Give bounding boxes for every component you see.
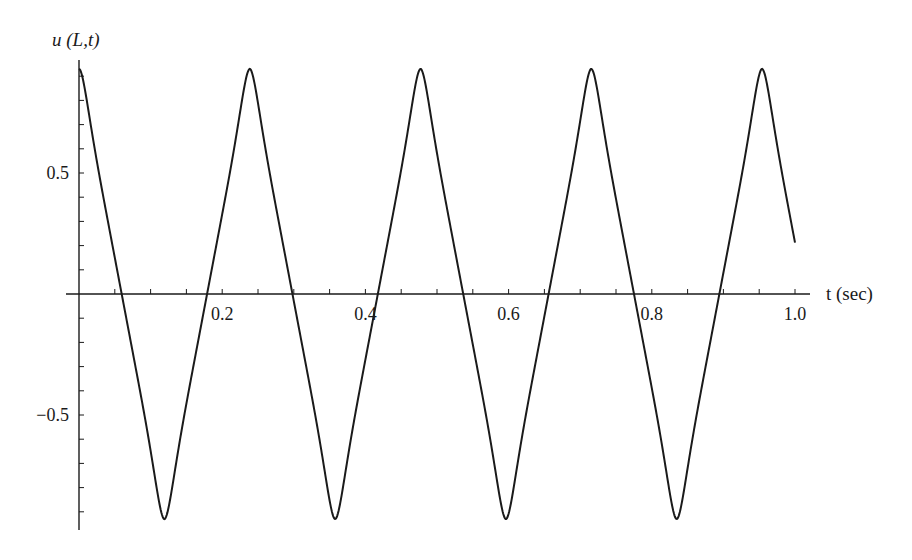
chart: 0.20.40.60.81.0 −0.50.5 u (L,t) t (sec)	[0, 0, 912, 560]
y-axis-label: u (L,t)	[52, 29, 100, 51]
x-ticks	[115, 289, 795, 294]
x-axis-label: t (sec)	[826, 283, 873, 305]
y-tick-labels: −0.50.5	[36, 163, 69, 425]
x-tick-label: 0.6	[497, 304, 520, 324]
x-tick-label: 0.8	[641, 304, 664, 324]
x-tick-label: 1.0	[784, 304, 807, 324]
y-tick-label: −0.5	[36, 405, 69, 425]
y-tick-label: 0.5	[47, 163, 70, 183]
x-tick-label: 0.2	[211, 304, 234, 324]
